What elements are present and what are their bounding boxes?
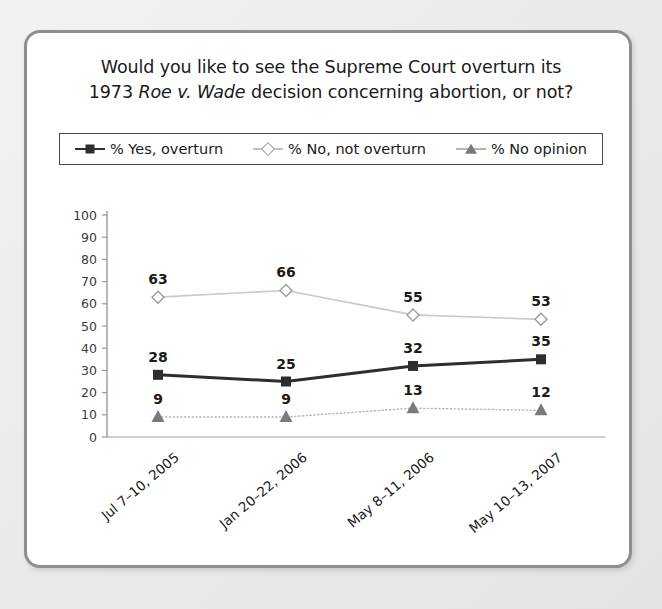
y-axis-tick-label: 90 xyxy=(81,230,97,245)
marker-square xyxy=(153,370,163,380)
y-axis-tick-label: 100 xyxy=(73,208,97,223)
marker-diamond xyxy=(152,291,164,303)
y-axis-tick-label: 50 xyxy=(81,319,97,334)
legend-item-yes-overturn[interactable]: % Yes, overturn xyxy=(75,141,223,157)
chart-legend: % Yes, overturn % No, not overturn % No … xyxy=(59,133,603,165)
data-label: 12 xyxy=(531,384,550,400)
y-axis-tick-label: 10 xyxy=(81,407,97,422)
y-axis-tick-label: 0 xyxy=(89,430,97,445)
legend-key-diamond-icon xyxy=(253,142,283,156)
marker-diamond xyxy=(535,313,547,325)
marker-triangle xyxy=(152,410,165,422)
data-label: 55 xyxy=(403,289,422,305)
series-line-3 xyxy=(158,408,541,417)
x-axis-tick-label: May 8–11, 2006 xyxy=(344,449,437,530)
legend-label-no-not-overturn: % No, not overturn xyxy=(288,141,426,157)
data-label: 32 xyxy=(403,340,422,356)
marker-square xyxy=(408,361,418,371)
x-axis-tick-label: Jan 20–22, 2006 xyxy=(215,449,310,532)
series-line-2 xyxy=(158,290,541,319)
data-label: 35 xyxy=(531,333,550,349)
marker-diamond xyxy=(407,309,419,321)
page-background: Would you like to see the Supreme Court … xyxy=(0,0,662,609)
chart-title-line-1: Would you like to see the Supreme Court … xyxy=(57,55,605,80)
marker-triangle xyxy=(280,410,293,422)
legend-key-triangle-icon xyxy=(456,142,486,156)
chart-card: Would you like to see the Supreme Court … xyxy=(24,30,632,568)
legend-item-no-opinion[interactable]: % No opinion xyxy=(456,141,587,157)
legend-key-square-icon xyxy=(75,142,105,156)
series-line-1 xyxy=(158,359,541,381)
y-axis-tick-label: 40 xyxy=(81,341,97,356)
chart-title-case-name: Roe v. Wade xyxy=(138,82,245,102)
y-axis-tick-label: 20 xyxy=(81,385,97,400)
marker-square xyxy=(281,377,291,387)
data-label: 53 xyxy=(531,293,550,309)
marker-triangle xyxy=(535,403,548,415)
chart-title-line-2-post: decision concerning abortion, or not? xyxy=(246,82,574,102)
data-label: 66 xyxy=(276,264,295,280)
x-axis-tick-label: Jul 7–10, 2005 xyxy=(97,449,182,524)
chart-svg: 0102030405060708090100636655539913122825… xyxy=(27,175,629,565)
data-label: 63 xyxy=(148,271,167,287)
y-axis-tick-label: 60 xyxy=(81,296,97,311)
legend-item-no-not-overturn[interactable]: % No, not overturn xyxy=(253,141,426,157)
plot-area: 0102030405060708090100636655539913122825… xyxy=(27,175,629,565)
legend-label-yes-overturn: % Yes, overturn xyxy=(110,141,223,157)
data-label: 9 xyxy=(153,391,163,407)
marker-diamond xyxy=(280,284,292,296)
y-axis-tick-label: 70 xyxy=(81,274,97,289)
data-label: 25 xyxy=(276,356,295,372)
marker-square xyxy=(536,354,546,364)
data-label: 28 xyxy=(148,349,167,365)
data-label: 9 xyxy=(281,391,291,407)
x-axis-tick-label: May 10–13, 2007 xyxy=(466,449,565,536)
chart-title: Would you like to see the Supreme Court … xyxy=(57,55,605,105)
y-axis-tick-label: 30 xyxy=(81,363,97,378)
legend-label-no-opinion: % No opinion xyxy=(491,141,587,157)
marker-triangle xyxy=(407,401,420,413)
chart-title-line-2-pre: 1973 xyxy=(89,82,139,102)
data-label: 13 xyxy=(403,382,422,398)
chart-title-line-2: 1973 Roe v. Wade decision concerning abo… xyxy=(57,80,605,105)
y-axis-tick-label: 80 xyxy=(81,252,97,267)
